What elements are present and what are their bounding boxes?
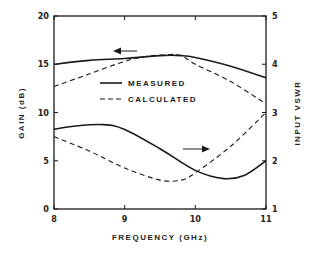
y-right-tick-label: 4 [272, 59, 278, 69]
y-left-tick-label: 15 [38, 59, 50, 69]
gain-vswr-chart: 8910110510152012345 MEASURED CALCULATED … [0, 0, 314, 256]
left-arrow-icon [113, 48, 121, 55]
x-tick-label: 11 [260, 214, 272, 224]
legend-measured-label: MEASURED [128, 79, 186, 88]
x-tick-label: 10 [190, 214, 202, 224]
x-tick-label: 9 [122, 214, 128, 224]
y-left-tick-label: 20 [38, 11, 50, 21]
y-right-tick-label: 2 [272, 156, 278, 166]
series-line-3 [54, 113, 266, 182]
series-line-2 [54, 124, 266, 178]
right-arrow-icon [202, 146, 210, 153]
y-left-tick-label: 10 [38, 108, 50, 118]
y-right-tick-label: 5 [272, 11, 278, 21]
y-right-tick-label: 1 [272, 204, 278, 214]
series-line-0 [54, 55, 266, 78]
y-left-tick-label: 5 [43, 156, 49, 166]
axis-ticks: 8910110510152012345 [38, 11, 278, 224]
x-tick-label: 8 [51, 214, 57, 224]
y-axis-right-label: INPUT VSWR [293, 80, 302, 145]
data-series [54, 54, 266, 181]
x-axis-label: FREQUENCY (GHz) [112, 233, 208, 242]
legend-calculated-label: CALCULATED [128, 95, 197, 104]
y-left-tick-label: 0 [43, 204, 49, 214]
y-axis-left-label: GAIN (dB) [17, 87, 26, 139]
legend: MEASURED CALCULATED [100, 79, 197, 104]
y-right-tick-label: 3 [272, 108, 278, 118]
